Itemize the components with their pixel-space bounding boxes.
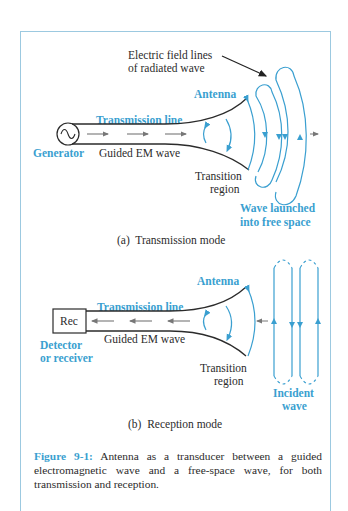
generator-label: Generator <box>33 147 84 159</box>
field-arrowhead <box>282 134 288 140</box>
panel-transmission: Electric field lines of radiated wave An… <box>33 49 318 247</box>
subcaption-a: (a) Transmission mode <box>117 234 225 247</box>
detector-label-line1: Detector <box>40 339 82 351</box>
panel-reception: Antenna Transmission line Rec <box>40 260 321 431</box>
transition-label-b-line2: region <box>214 375 244 388</box>
transition-label-a-line1: Transition <box>195 170 242 182</box>
launched-label-line1: Wave launched <box>240 202 316 214</box>
field-arrowhead <box>297 134 303 140</box>
guided-wave-label-b: Guided EM wave <box>104 333 185 345</box>
figure-number: Figure 9-1: <box>34 450 93 462</box>
antenna-label-b: Antenna <box>197 275 239 287</box>
field-arc <box>226 119 231 149</box>
detector-label-line2: or receiver <box>40 352 93 364</box>
transition-label-b-line1: Transition <box>200 362 247 374</box>
field-arc-rx <box>204 314 207 330</box>
receiver-box-label: Rec <box>60 315 78 327</box>
field-arc-rx <box>248 289 255 356</box>
incident-label-line2: wave <box>282 400 307 412</box>
launched-label-line2: into free space <box>240 216 311 229</box>
field-lines-annotation-line2: of radiated wave <box>128 62 205 74</box>
transition-label-a-line2: region <box>210 183 240 196</box>
ac-source-icon <box>57 123 79 145</box>
antenna-label-a: Antenna <box>194 88 236 100</box>
figure-caption: Figure 9-1: Antenna as a transducer betw… <box>34 449 322 492</box>
field-lines-annotation-line1: Electric field lines <box>128 49 213 61</box>
incident-wave-loops <box>271 260 321 384</box>
subcaption-b: (b) Reception mode <box>128 418 222 431</box>
field-arc-rx <box>226 306 232 338</box>
receiver-box-icon: Rec <box>53 309 86 333</box>
guided-wave-label-a: Guided EM wave <box>99 147 180 159</box>
incident-label-line1: Incident <box>273 387 314 399</box>
field-arc <box>247 99 255 170</box>
annotation-arrow <box>222 56 266 76</box>
field-arc <box>204 126 207 143</box>
